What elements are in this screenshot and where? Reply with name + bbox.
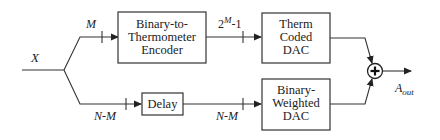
bottom-branch-wire [64, 70, 141, 104]
therm-dac-line3: DAC [283, 43, 309, 57]
thermometer-bus-label: 2M-1 [218, 15, 242, 31]
bw-dac-line1: Binary- [277, 83, 315, 97]
encoder-block: Binary-to- Thermometer Encoder [118, 12, 206, 63]
encoder-line3: Encoder [141, 43, 183, 57]
top-bus-label: M [85, 17, 97, 31]
segmented-dac-diagram: X M N-M Binary-to- Thermometer Encoder 2… [0, 0, 440, 140]
therm-dac-output-wire [330, 38, 372, 63]
bw-dac-output-wire [330, 79, 372, 104]
delayed-bus-label: N-M [215, 109, 239, 123]
output-label: Aout [394, 81, 414, 97]
thermometer-dac-block: Therm Coded DAC [262, 13, 330, 63]
input-x: X [22, 50, 64, 70]
summing-junction [368, 64, 383, 79]
encoder-line1: Binary-to- [136, 17, 188, 31]
delay-label: Delay [148, 97, 179, 111]
therm-dac-line2: Coded [280, 30, 313, 44]
bw-dac-line3: DAC [283, 109, 309, 123]
therm-dac-line1: Therm [279, 17, 313, 31]
binary-weighted-dac-block: Binary- Weighted DAC [262, 79, 330, 130]
bottom-bus-label: N-M [93, 109, 117, 123]
input-label: X [30, 50, 40, 65]
delay-block: Delay [142, 93, 183, 115]
top-branch-wire [64, 37, 118, 70]
encoder-line2: Thermometer [128, 30, 197, 44]
bw-dac-line2: Weighted [272, 96, 320, 110]
